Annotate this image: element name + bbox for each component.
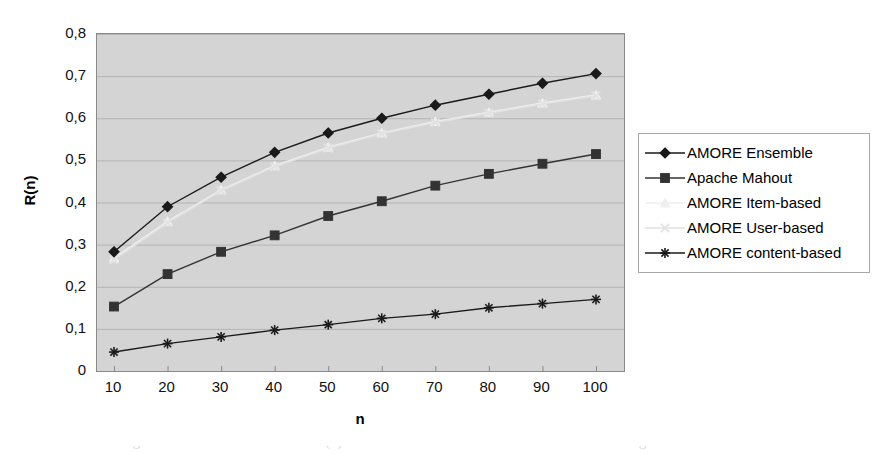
chart-legend: AMORE EnsembleApache MahoutAMORE Item-ba… [638, 133, 870, 273]
data-point-square [592, 150, 601, 159]
data-point-asterisk [323, 320, 333, 330]
legend-item: AMORE Item-based [643, 190, 865, 215]
data-point-diamond [660, 148, 670, 158]
figure-caption-cropped: Figure 6.9 - The achieved recall R(n) as… [0, 446, 884, 454]
y-tick-label: 0,4 [42, 194, 86, 209]
y-tick-label: 0,8 [42, 25, 86, 40]
legend-label: AMORE Item-based [687, 195, 821, 211]
x-tick-label: 50 [307, 379, 347, 394]
data-point-asterisk [163, 339, 173, 349]
legend-marker-square-icon [643, 168, 687, 188]
x-tick-label: 100 [575, 379, 615, 394]
y-axis-title: R(n) [21, 156, 38, 226]
x-axis-title: n [330, 410, 390, 427]
data-point-square [163, 270, 172, 279]
legend-marker-diamond-icon [643, 143, 687, 163]
y-tick-label: 0,5 [42, 151, 86, 166]
x-tick-label: 60 [361, 379, 401, 394]
data-point-asterisk [430, 309, 440, 319]
data-point-square [110, 302, 119, 311]
data-point-asterisk [537, 299, 547, 309]
data-point-asterisk [377, 313, 387, 323]
data-point-diamond [377, 113, 387, 123]
data-point-asterisk [591, 294, 601, 304]
data-point-asterisk [484, 303, 494, 313]
legend-item: AMORE Ensemble [643, 140, 865, 165]
data-point-square [484, 169, 493, 178]
legend-marker-asterisk-icon [643, 243, 687, 263]
x-tick-label: 80 [468, 379, 508, 394]
data-point-diamond [430, 100, 440, 110]
legend-label: Apache Mahout [687, 170, 792, 186]
data-point-asterisk [216, 332, 226, 342]
legend-item: Apache Mahout [643, 165, 865, 190]
data-point-diamond [216, 172, 226, 182]
x-tick-label: 90 [521, 379, 561, 394]
data-point-asterisk [270, 325, 280, 335]
series-amore-content-based [109, 294, 601, 357]
plot-svg [97, 34, 624, 371]
y-tick-label: 0 [42, 362, 86, 377]
legend-item: AMORE User-based [643, 215, 865, 240]
data-point-square [324, 212, 333, 221]
legend-marker-x-icon [643, 218, 687, 238]
y-tick-label: 0,3 [42, 236, 86, 251]
y-tick-label: 0,6 [42, 109, 86, 124]
data-point-diamond [484, 89, 494, 99]
y-tick-label: 0,1 [42, 320, 86, 335]
data-point-diamond [537, 78, 547, 88]
y-tick-label: 0,7 [42, 67, 86, 82]
legend-label: AMORE content-based [687, 245, 841, 261]
data-point-diamond [323, 128, 333, 138]
data-point-square [377, 197, 386, 206]
data-point-asterisk [109, 347, 119, 357]
y-tick-label: 0,2 [42, 278, 86, 293]
series-amore-item-based [109, 90, 601, 262]
x-tick-label: 10 [93, 379, 133, 394]
x-tick-label: 30 [200, 379, 240, 394]
x-tick-label: 20 [147, 379, 187, 394]
legend-marker-triangle-icon [643, 193, 687, 213]
x-tick-label: 70 [414, 379, 454, 394]
x-tick-label: 40 [254, 379, 294, 394]
data-point-diamond [270, 147, 280, 157]
data-point-square [217, 247, 226, 256]
data-point-square [270, 231, 279, 240]
series-amore-ensemble [109, 69, 601, 257]
plot-area [96, 33, 625, 372]
legend-label: AMORE Ensemble [687, 145, 813, 161]
data-point-square [431, 181, 440, 190]
series-amore-user-based [110, 92, 600, 264]
chart-figure: R(n) 00,10,20,30,40,50,60,70,8 102030405… [0, 0, 884, 454]
legend-label: AMORE User-based [687, 220, 824, 236]
caption-text: Figure 6.9 - The achieved recall R(n) as… [120, 446, 692, 450]
data-point-square [661, 173, 670, 182]
data-point-square [538, 159, 547, 168]
data-point-asterisk [660, 248, 670, 258]
legend-item: AMORE content-based [643, 240, 865, 265]
